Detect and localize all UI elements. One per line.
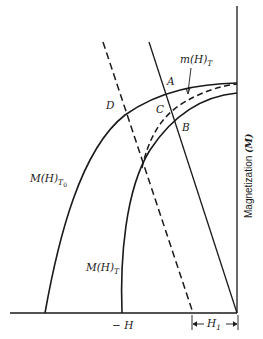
point-label-b: B [182,122,190,133]
vertical-axis-label: Magnetization (M) [243,133,254,218]
curve-M-H-T [122,93,237,313]
diagram-canvas [0,0,263,339]
h1-arrowhead-right [233,322,237,327]
curve-label-M-H-T0: M(H)T0 [30,173,67,188]
point-label-a: A [167,76,175,87]
solid-line [149,42,237,313]
interval-label-h1: H1 [207,318,221,332]
h1-arrowhead-left [193,322,197,327]
curve-label-m-H-T: m(H)T [180,54,212,68]
curve-label-M-H-T: M(H)T [86,262,119,276]
curve-M-H-T0 [45,83,237,313]
point-label-c: C [156,104,164,115]
magnetization-diagram: A B C D m(H)T M(H)T0 M(H)T − H H1 Magnet… [0,0,263,339]
point-label-d: D [106,100,114,111]
horizontal-axis-label: − H [112,320,133,331]
